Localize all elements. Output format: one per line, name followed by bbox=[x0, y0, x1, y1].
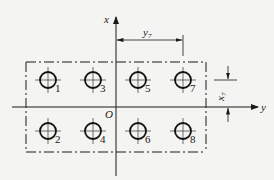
y7-label: y7 bbox=[142, 26, 152, 40]
hole-7: 7 bbox=[170, 67, 196, 94]
x-axis-label: x bbox=[103, 13, 109, 25]
hole-6: 6 bbox=[125, 118, 151, 145]
hole-label: 3 bbox=[100, 82, 106, 94]
diagram-canvas: 13572468 x y O y7 x7 bbox=[0, 0, 274, 180]
hole-label: 6 bbox=[145, 133, 151, 145]
y-axis-label: y bbox=[260, 101, 266, 113]
hole-1: 1 bbox=[35, 67, 61, 94]
hole-3: 3 bbox=[80, 67, 106, 94]
hole-label: 5 bbox=[145, 82, 151, 94]
hole-label: 1 bbox=[55, 82, 61, 94]
hole-label: 8 bbox=[190, 133, 196, 145]
hole-label: 2 bbox=[55, 133, 61, 145]
hole-label: 4 bbox=[100, 133, 106, 145]
hole-5: 5 bbox=[125, 67, 151, 94]
hole-4: 4 bbox=[80, 118, 106, 145]
hole-8: 8 bbox=[170, 118, 196, 145]
origin-label: O bbox=[105, 108, 113, 120]
x7-label: x7 bbox=[214, 92, 228, 102]
hole-label: 7 bbox=[190, 82, 196, 94]
diagram-svg: 13572468 x y O y7 x7 bbox=[0, 0, 274, 180]
hole-2: 2 bbox=[35, 118, 61, 145]
